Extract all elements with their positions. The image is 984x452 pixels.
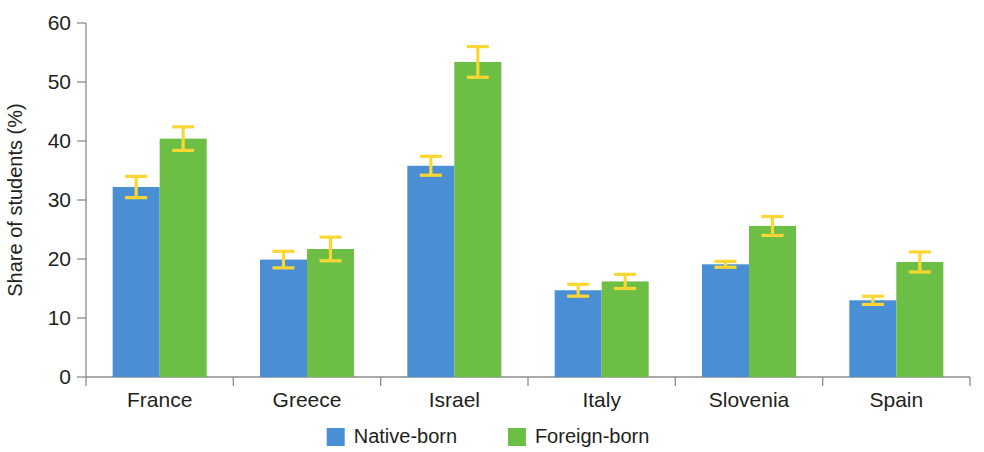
y-tick-label: 0 [59,365,71,388]
x-tick-group [86,377,970,386]
bar [602,281,649,377]
plot-area: FranceGreeceIsraelItalySloveniaSpain [113,47,944,411]
bar-group [260,237,354,377]
bar [555,290,602,377]
x-tick-label: Israel [429,388,480,411]
x-tick-label: Slovenia [709,388,790,411]
bar [896,262,943,377]
y-tick-group: 0102030405060 [48,11,86,388]
bar [160,139,207,377]
x-axis [86,377,970,386]
y-axis: 0102030405060 [48,11,86,388]
chart-legend: Native-bornForeign-born [327,425,650,447]
x-tick-label: France [127,388,192,411]
y-tick-label: 10 [48,306,71,329]
y-axis-title-group: Share of students (%) [4,103,26,296]
bar [749,226,796,377]
y-axis-title: Share of students (%) [4,103,26,296]
bar [849,300,896,377]
y-tick-label: 60 [48,11,71,34]
x-tick-label: Italy [582,388,621,411]
bar [702,264,749,377]
bar-group [113,127,207,377]
bar [113,187,160,377]
legend-item[interactable]: Foreign-born [508,425,650,447]
bar [260,260,307,377]
y-tick-label: 20 [48,247,71,270]
bar [307,249,354,377]
legend-swatch [508,428,526,446]
y-tick-label: 50 [48,70,71,93]
bar-group [702,217,796,377]
legend-label: Foreign-born [535,425,650,447]
chart-canvas: Share of students (%) 0102030405060 Fran… [0,0,984,452]
bar [407,166,454,377]
y-tick-label: 30 [48,188,71,211]
bar-chart-figure: Share of students (%) 0102030405060 Fran… [0,0,984,452]
bar-group [555,274,649,377]
bar-group [849,252,943,377]
bar [454,62,501,377]
legend-label: Native-born [354,425,457,447]
legend-item[interactable]: Native-born [327,425,457,447]
x-tick-label: Spain [869,388,923,411]
legend-swatch [327,428,345,446]
x-tick-label: Greece [273,388,342,411]
y-tick-label: 40 [48,129,71,152]
bar-group [407,47,501,377]
